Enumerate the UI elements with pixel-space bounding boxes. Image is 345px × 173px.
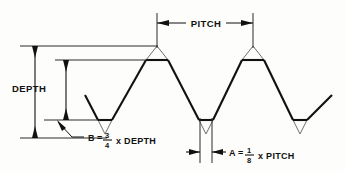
- b-dimension: [63, 60, 69, 120]
- thread-flank-right-exit: [307, 95, 332, 120]
- thread-flank-rise-1: [112, 60, 146, 120]
- ghost-crest-triangle-1: [146, 46, 168, 60]
- depth-dimension: DEPTH: [12, 46, 46, 138]
- depth-arrow-bottom-icon: [32, 126, 38, 138]
- pitch-label: PITCH: [191, 18, 222, 29]
- a-arrow-left-icon: [189, 149, 200, 155]
- depth-arrow-top-icon: [32, 46, 38, 58]
- a-dimension: A = 1 8 x PITCH: [186, 118, 295, 165]
- a-equation-denominator: 8: [247, 156, 251, 165]
- thread-flank-left-entry: [85, 95, 98, 120]
- thread-flank-fall-2: [264, 60, 293, 120]
- thread-flank-rise-2: [213, 60, 242, 120]
- a-equation-multiplier: x PITCH: [258, 151, 295, 161]
- thread-profile-diagram: DEPTH B = 3 4 x DEPTH PITCH: [0, 0, 345, 173]
- thread-profile-waveform: [85, 60, 332, 120]
- thread-flank-fall-1: [168, 60, 199, 120]
- ghost-crest-triangle-2: [242, 46, 264, 60]
- depth-label: DEPTH: [12, 83, 46, 94]
- b-equation-numerator: 3: [105, 131, 109, 140]
- pitch-dimension: PITCH: [157, 13, 253, 48]
- thread-profile-diagram-screenshot: DEPTH B = 3 4 x DEPTH PITCH: [0, 0, 345, 173]
- pitch-arrow-right-icon: [241, 20, 253, 26]
- b-arrow-bottom-icon: [63, 108, 69, 120]
- b-equation-equals: =: [97, 133, 103, 143]
- b-equation-multiplier: x DEPTH: [116, 136, 156, 146]
- b-arrow-top-icon: [63, 60, 69, 72]
- a-equation-equals: =: [238, 148, 244, 158]
- a-equation-variable: A: [229, 148, 236, 158]
- pitch-arrow-left-icon: [157, 20, 169, 26]
- a-arrow-right-icon: [212, 149, 223, 155]
- b-leader-annotation: B = 3 4 x DEPTH: [57, 120, 156, 150]
- a-equation-numerator: 1: [247, 146, 251, 155]
- b-equation-variable: B: [88, 133, 95, 143]
- b-equation-denominator: 4: [105, 141, 110, 150]
- ghost-root-triangle-3: [293, 120, 307, 134]
- ghost-root-triangle-2: [199, 120, 213, 134]
